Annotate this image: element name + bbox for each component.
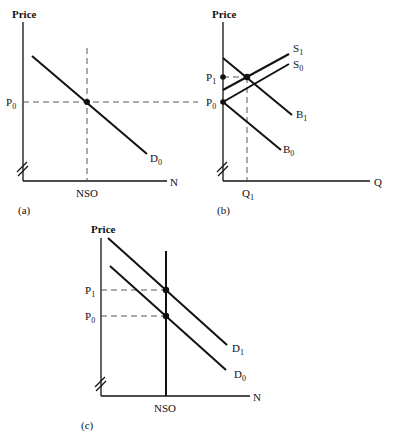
equilibrium-point-1 xyxy=(163,287,169,293)
s0-label: S0 xyxy=(293,58,303,73)
y-axis-label: Price xyxy=(91,223,116,235)
curve-b1 xyxy=(223,58,292,115)
d0-label: D0 xyxy=(234,368,246,383)
y-axis-label: Price xyxy=(12,8,37,20)
p1-point xyxy=(220,74,226,80)
axis-break-mark xyxy=(17,162,27,172)
nso-label: NSO xyxy=(154,402,176,414)
equilibrium-point-0 xyxy=(163,313,169,319)
d1-label: D1 xyxy=(232,342,244,357)
x-axis-label: Q xyxy=(374,176,382,188)
nso-label: NSO xyxy=(76,187,98,199)
price-p1-label: P1 xyxy=(85,284,95,299)
b0-label: B0 xyxy=(283,143,294,158)
caption-c: (c) xyxy=(81,419,94,432)
y-axis-label: Price xyxy=(212,8,237,20)
price-p0-label: P0 xyxy=(6,96,16,111)
x-axis-label: N xyxy=(253,391,261,403)
d0-label: D0 xyxy=(150,152,162,167)
curve-b0 xyxy=(223,102,281,150)
equilibrium-point xyxy=(244,74,250,80)
economics-diagram: Price N P0 NSO D0 (a) Price Q P1 P0 S1 S… xyxy=(0,0,393,439)
panel-c: Price N P1 P0 D1 D0 NSO (c) xyxy=(81,223,261,432)
p0-point xyxy=(220,99,226,105)
price-p0-label: P0 xyxy=(85,310,95,325)
price-p1-label: P1 xyxy=(206,71,216,86)
price-p0-label: P0 xyxy=(206,96,216,111)
demand-curve-d0 xyxy=(32,56,147,154)
s1-label: S1 xyxy=(293,42,303,57)
b1-label: B1 xyxy=(296,108,307,123)
panel-a: Price N P0 NSO D0 (a) xyxy=(6,8,198,217)
caption-b: (b) xyxy=(217,204,230,217)
caption-a: (a) xyxy=(18,204,31,217)
q1-label: Q1 xyxy=(242,187,254,202)
panel-b: Price Q P1 P0 S1 S0 B1 B0 Q1 (b) xyxy=(206,8,382,217)
axis-break-mark xyxy=(217,162,227,172)
curve-s0 xyxy=(223,64,289,102)
axis-break-mark xyxy=(95,377,105,387)
x-axis-label: N xyxy=(170,176,178,188)
equilibrium-point xyxy=(84,99,90,105)
